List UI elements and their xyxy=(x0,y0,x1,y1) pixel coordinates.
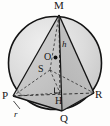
point-label-O: O xyxy=(44,52,51,62)
point-label-H: H xyxy=(55,96,62,106)
figure-canvas xyxy=(0,0,110,126)
vertex-label-M: M xyxy=(54,0,64,11)
measure-label-height: h xyxy=(62,40,67,49)
geometry-figure: M P Q R O S H h r xyxy=(0,0,110,126)
vertex-label-R: R xyxy=(95,89,102,100)
centre-point-O xyxy=(54,56,58,60)
radius-leader-line xyxy=(14,101,21,109)
vertex-label-Q: Q xyxy=(60,113,68,124)
point-label-S: S xyxy=(38,64,44,74)
measure-label-radius: r xyxy=(14,110,18,119)
vertex-label-P: P xyxy=(2,90,8,101)
